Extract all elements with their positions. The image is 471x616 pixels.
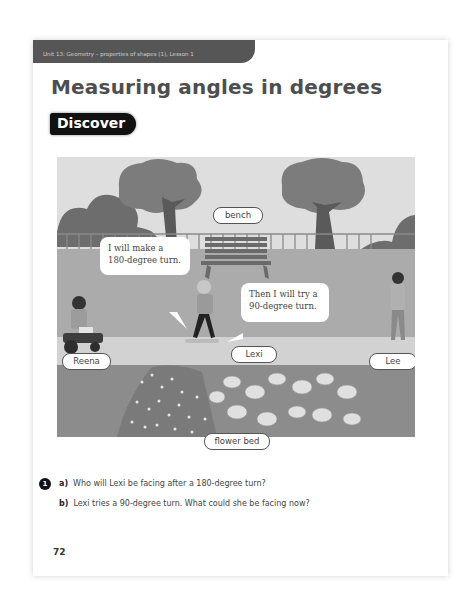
unit-label: Unit 13: Geometry – properties of shapes… [43, 51, 194, 57]
speech-bubble-line: Then I will try a [249, 288, 321, 300]
speech-bubble-line: 180-degree turn. [108, 254, 182, 266]
label-reena: Reena [62, 353, 111, 370]
question-b-text: Lexi tries a 90-degree turn. What could … [73, 499, 309, 508]
unit-header-band: Unit 13: Geometry – properties of shapes… [33, 40, 255, 63]
question-b: b)Lexi tries a 90-degree turn. What coul… [59, 499, 310, 508]
speech-bubble-line: 90-degree turn. [249, 300, 321, 312]
question-a-text: Who will Lexi be facing after a 180-degr… [73, 479, 266, 488]
question-a: a)Who will Lexi be facing after a 180-de… [59, 479, 266, 488]
discover-label: Discover [57, 115, 125, 131]
speech-bubble-180: I will make a 180-degree turn. [100, 237, 190, 275]
discover-badge: Discover [50, 113, 136, 135]
label-bench: bench [213, 207, 263, 224]
label-lexi: Lexi [231, 346, 277, 363]
park-illustration: I will make a 180-degree turn. Then I wi… [57, 157, 415, 437]
question-b-letter: b) [59, 499, 68, 508]
page-number: 72 [53, 547, 66, 557]
speech-bubble-tails [57, 157, 415, 437]
speech-bubble-line: I will make a [108, 242, 182, 254]
question-a-letter: a) [59, 479, 68, 488]
speech-bubble-90: Then I will try a 90-degree turn. [241, 283, 329, 322]
textbook-page: Unit 13: Geometry – properties of shapes… [33, 40, 448, 576]
page-title: Measuring angles in degrees [51, 75, 382, 99]
label-flower-bed: flower bed [204, 433, 270, 450]
question-number-badge: 1 [39, 478, 51, 490]
label-lee: Lee [369, 353, 415, 370]
